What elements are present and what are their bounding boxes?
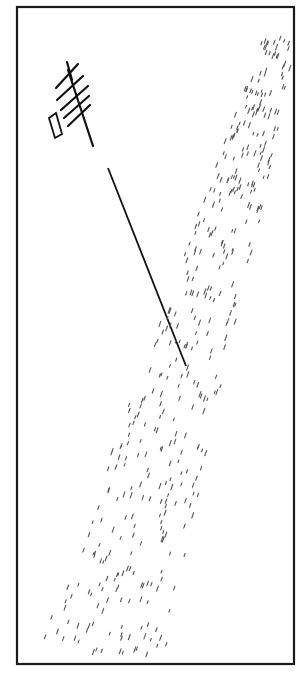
scattered-dashes [44,36,290,657]
figure-frame [17,7,294,664]
track-diagram [0,0,301,679]
main-track-line [108,168,186,366]
feather-mark [49,62,93,146]
